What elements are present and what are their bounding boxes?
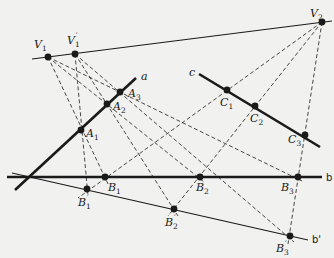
label-a2: A2 xyxy=(112,100,126,115)
line-label-b: b xyxy=(326,172,332,183)
main-lines xyxy=(7,21,332,240)
label-v2: V2 xyxy=(310,7,323,22)
line-label-a: a xyxy=(141,70,148,83)
dashed-construction-line xyxy=(48,57,108,184)
point-b1 xyxy=(102,174,109,181)
line-a xyxy=(15,78,136,190)
point-b2 xyxy=(197,174,204,181)
geometry-diagram: V1V1′V2A1A2A3C1C2C3B1B2B3B1′B2′B3′ acbb' xyxy=(0,0,334,258)
label-b2p: B2′ xyxy=(164,213,178,231)
label-a1: A1 xyxy=(85,127,99,142)
point-c3 xyxy=(302,132,309,139)
point-a3 xyxy=(117,89,124,96)
point-v1p xyxy=(72,51,79,58)
label-c2: C2 xyxy=(250,112,263,127)
diagram-canvas: V1V1′V2A1A2A3C1C2C3B1B2B3B1′B2′B3′ acbb' xyxy=(0,0,334,258)
point-a2 xyxy=(104,101,111,108)
label-b1p: B1′ xyxy=(77,193,91,211)
label-a3: A3 xyxy=(127,87,141,102)
label-b3: B3 xyxy=(280,181,294,196)
line-b-prime xyxy=(12,173,308,240)
line-label-b-prime: b' xyxy=(312,234,321,245)
label-b2: B2 xyxy=(195,181,209,196)
point-b3 xyxy=(295,174,302,181)
point-b3p xyxy=(287,233,294,240)
point-b2p xyxy=(171,206,178,213)
label-c1: C1 xyxy=(220,96,233,111)
point-a1 xyxy=(78,127,85,134)
label-v1: V1 xyxy=(34,38,47,53)
dashed-construction-line xyxy=(48,57,302,181)
point-c2 xyxy=(252,103,259,110)
point-v1 xyxy=(45,54,52,61)
dashed-construction-line xyxy=(168,22,322,216)
point-b1p xyxy=(84,186,91,193)
label-v1p: V1′ xyxy=(67,31,80,49)
label-b1: B1 xyxy=(107,181,121,196)
label-b3p: B3′ xyxy=(275,239,289,257)
line-label-c: c xyxy=(189,66,195,79)
point-c1 xyxy=(224,87,231,94)
dashed-construction-line xyxy=(75,54,294,242)
